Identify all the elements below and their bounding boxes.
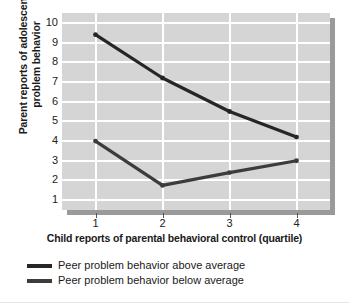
data-point-marker (294, 158, 299, 163)
y-tick-label: 9 (32, 37, 58, 48)
x-tick-label: 4 (287, 217, 307, 229)
legend: Peer problem behavior above average Peer… (27, 258, 337, 288)
data-point-marker (93, 139, 98, 144)
data-point-marker (294, 135, 299, 140)
series-lines (62, 13, 330, 210)
y-tick-label: 6 (32, 96, 58, 107)
legend-label-below: Peer problem behavior below average (58, 274, 244, 287)
plot-area (62, 13, 330, 210)
y-tick-label: 5 (32, 115, 58, 126)
data-point-marker (160, 76, 165, 81)
y-tick-label: 1 (32, 194, 58, 205)
legend-item-above: Peer problem behavior above average (27, 258, 337, 273)
x-tick-label: 1 (86, 217, 106, 229)
x-tick-label: 3 (220, 217, 240, 229)
legend-label-above: Peer problem behavior above average (58, 259, 245, 272)
y-tick-label: 4 (32, 135, 58, 146)
y-tick-label: 10 (32, 17, 58, 28)
data-point-marker (93, 32, 98, 37)
x-axis-title: Child reports of parental behavioral con… (0, 232, 349, 244)
series-line (96, 35, 297, 137)
y-tick-label: 7 (32, 76, 58, 87)
data-point-marker (227, 170, 232, 175)
legend-swatch-line-icon (27, 279, 52, 283)
legend-item-below: Peer problem behavior below average (27, 273, 337, 288)
y-tick-label: 3 (32, 155, 58, 166)
data-point-marker (160, 183, 165, 188)
y-tick-label: 2 (32, 174, 58, 185)
chart-figure: Parent reports of adolescent problem beh… (0, 0, 349, 305)
series-line (96, 141, 297, 185)
plot-panel (62, 13, 330, 210)
bottom-divider (0, 302, 349, 303)
y-axis-tick-labels: 12345678910 (28, 13, 58, 210)
y-tick-label: 8 (32, 56, 58, 67)
x-tick-label: 2 (153, 217, 173, 229)
data-point-marker (227, 109, 232, 114)
x-axis-tick-labels: 1234 (62, 213, 330, 229)
legend-swatch-line-icon (27, 264, 52, 268)
